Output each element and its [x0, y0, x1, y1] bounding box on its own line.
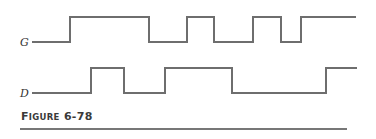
signal-label-g: G — [20, 36, 29, 49]
figure-caption: FIGURE 6-78 — [21, 110, 93, 123]
caption-initial: F — [21, 110, 29, 123]
caption-word: IGURE — [29, 112, 60, 122]
signal-label-d: D — [19, 87, 29, 100]
caption-number: 6-78 — [64, 110, 93, 123]
waveform-g — [32, 17, 356, 42]
caption-rule — [20, 128, 347, 130]
waveform-d — [32, 68, 357, 93]
